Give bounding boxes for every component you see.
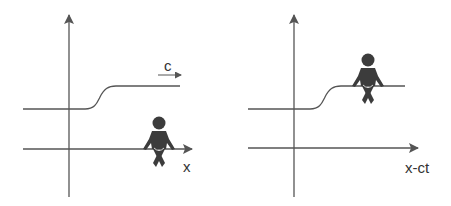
right-wave-curve — [248, 86, 405, 109]
person-icon-moving — [352, 54, 384, 105]
velocity-label: c — [164, 57, 172, 74]
person-icon-stationary — [143, 117, 175, 168]
left-x-axis-label: x — [183, 158, 191, 175]
left-panel: c x — [23, 15, 192, 197]
diagram-canvas: c x x-ct — [0, 0, 451, 206]
right-panel: x-ct — [248, 15, 430, 197]
left-wave-curve — [23, 86, 180, 109]
right-x-axis-label: x-ct — [405, 159, 430, 176]
